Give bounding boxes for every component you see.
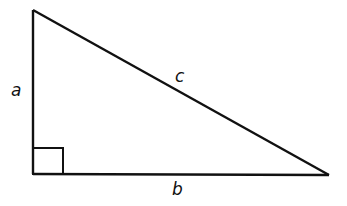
side-b xyxy=(33,174,329,175)
right-triangle-diagram: a b c xyxy=(0,0,347,206)
triangle xyxy=(33,10,329,175)
hypotenuse-c xyxy=(33,10,329,175)
right-angle-marker xyxy=(33,148,63,174)
label-a: a xyxy=(11,80,21,100)
label-b: b xyxy=(172,179,183,199)
label-c: c xyxy=(175,66,185,86)
